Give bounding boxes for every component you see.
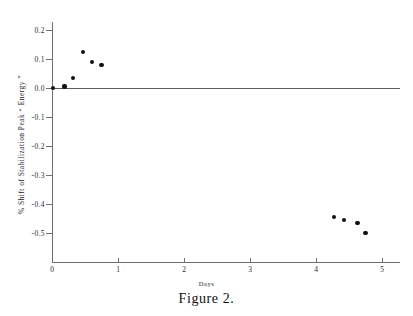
data-point — [62, 84, 66, 88]
y-axis-tick-label: -0.5 — [32, 229, 45, 238]
x-axis-tick — [316, 258, 317, 263]
data-point — [363, 231, 367, 235]
data-point — [99, 63, 103, 67]
y-axis-tick — [46, 233, 53, 234]
data-point — [71, 76, 75, 80]
data-point — [90, 60, 94, 64]
x-axis-label: Days — [0, 280, 413, 287]
x-axis-tick-label: 4 — [309, 265, 323, 274]
y-axis-tick — [46, 117, 53, 118]
zero-reference-line — [52, 88, 400, 89]
data-point — [342, 218, 346, 222]
figure-caption: Figure 2. — [0, 291, 413, 307]
data-point — [81, 50, 85, 54]
x-axis-tick-label: 0 — [45, 265, 59, 274]
y-axis-tick — [46, 146, 53, 147]
x-axis-tick-label: 1 — [111, 265, 125, 274]
y-axis-tick — [46, 204, 53, 205]
x-axis-tick-label: 2 — [177, 265, 191, 274]
data-point — [355, 221, 359, 225]
y-axis-tick-label: -0.2 — [32, 142, 45, 151]
x-axis-tick — [382, 258, 383, 263]
x-axis-tick-label: 5 — [375, 265, 389, 274]
x-axis-tick — [118, 258, 119, 263]
y-axis-label: % Shift of Stabilization Peak “ Energy ” — [17, 29, 26, 261]
y-axis-tick-label: -0.1 — [32, 113, 45, 122]
data-point — [51, 86, 55, 90]
y-axis-tick — [46, 59, 53, 60]
x-axis-tick-label: 3 — [243, 265, 257, 274]
x-axis-line — [52, 262, 400, 263]
data-point — [332, 215, 336, 219]
x-axis-tick — [52, 258, 53, 263]
y-axis-tick-label: -0.3 — [32, 171, 45, 180]
y-axis-tick-label: 0.1 — [34, 55, 45, 64]
y-axis-tick — [46, 30, 53, 31]
x-axis-tick — [184, 258, 185, 263]
y-axis-tick-label: -0.4 — [32, 200, 45, 209]
y-axis-tick — [46, 175, 53, 176]
x-axis-tick — [250, 258, 251, 263]
figure-container: 0.20.10.0-0.1-0.2-0.3-0.4-0.5 012345 % S… — [0, 0, 413, 316]
y-axis-tick-label: 0.2 — [34, 26, 45, 35]
y-axis-tick-label: 0.0 — [34, 84, 45, 93]
